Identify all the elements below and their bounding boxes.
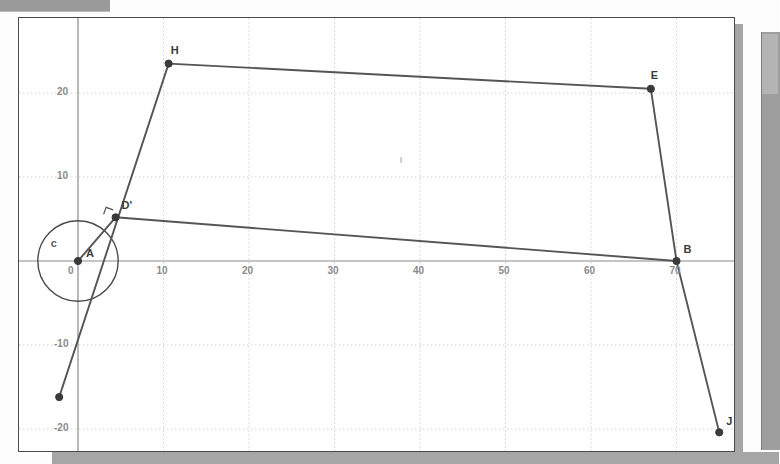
point-label-J: J bbox=[726, 415, 732, 427]
x-tick-label-0: 0 bbox=[68, 265, 74, 276]
y-tick-label-10: 10 bbox=[57, 170, 68, 181]
segment-B-Dp[interactable] bbox=[116, 217, 677, 261]
x-tick-label-60: 60 bbox=[584, 265, 595, 276]
point-K[interactable] bbox=[56, 393, 63, 400]
point-label-I: I bbox=[400, 155, 403, 165]
y-tick-label-20: 20 bbox=[57, 86, 68, 97]
geometry-svg bbox=[19, 18, 734, 451]
x-tick-label-50: 50 bbox=[499, 265, 510, 276]
point-E[interactable] bbox=[647, 85, 654, 92]
point-Dp[interactable] bbox=[112, 214, 119, 221]
x-tick-label-40: 40 bbox=[413, 265, 424, 276]
right-angle-at-Dp-marker bbox=[104, 207, 114, 214]
point-label-H: H bbox=[171, 44, 179, 56]
y-tick-label--20: -20 bbox=[54, 422, 68, 433]
y-tick-label--10: -10 bbox=[54, 338, 68, 349]
vertical-scrollbar-thumb[interactable] bbox=[762, 34, 778, 94]
point-B[interactable] bbox=[673, 257, 680, 264]
x-tick-label-30: 30 bbox=[328, 265, 339, 276]
point-A[interactable] bbox=[74, 257, 81, 264]
x-tick-label-10: 10 bbox=[157, 265, 168, 276]
segment-H-K[interactable] bbox=[59, 64, 168, 397]
point-label-Dp: D' bbox=[122, 199, 133, 211]
circle-label-c: c bbox=[51, 237, 57, 249]
point-label-A: A bbox=[86, 247, 94, 259]
point-H[interactable] bbox=[165, 60, 172, 67]
x-tick-label-20: 20 bbox=[242, 265, 253, 276]
point-label-E: E bbox=[651, 69, 658, 81]
point-label-B: B bbox=[684, 243, 692, 255]
segment-A-Dp[interactable] bbox=[78, 217, 116, 261]
x-tick-label-70: 70 bbox=[670, 265, 681, 276]
segment-B-J[interactable] bbox=[677, 261, 720, 432]
window-titlebar bbox=[0, 0, 110, 12]
segment-E-B[interactable] bbox=[651, 89, 677, 261]
vertical-scrollbar[interactable] bbox=[761, 32, 780, 450]
window-shadow-bottom bbox=[52, 452, 779, 464]
segment-H-E[interactable] bbox=[169, 64, 651, 89]
window-shadow-right bbox=[735, 24, 743, 454]
point-J[interactable] bbox=[716, 429, 723, 436]
geometry-canvas[interactable]: 0102030405060702010-10-20AD'HEBJIc bbox=[18, 17, 735, 452]
